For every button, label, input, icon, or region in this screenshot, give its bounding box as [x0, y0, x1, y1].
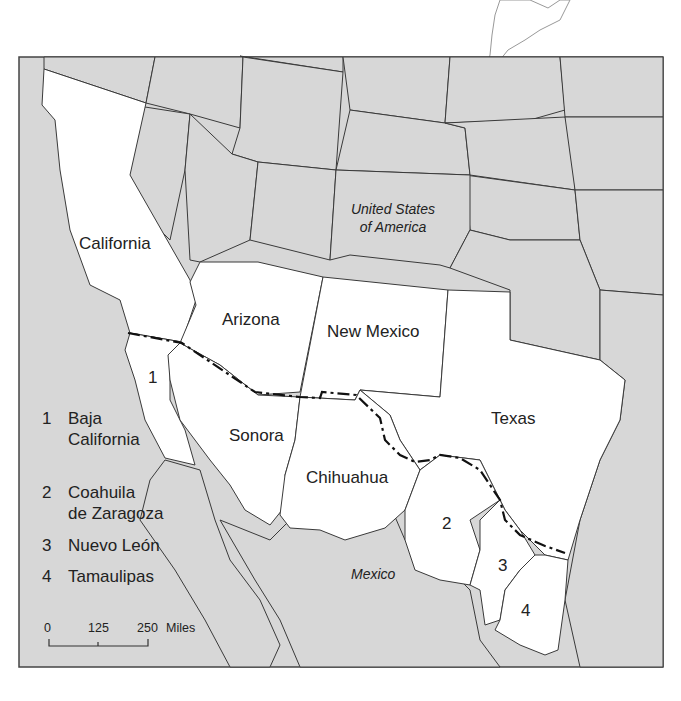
legend-num-4: 4 — [42, 567, 51, 586]
legend-num-3: 3 — [42, 536, 51, 555]
legend-num-2: 2 — [42, 483, 51, 502]
scale-unit: Miles — [166, 621, 195, 635]
label-mexico: Mexico — [351, 566, 396, 582]
legend-item-2-line1: Coahuila — [68, 483, 136, 502]
label-region-2: 2 — [442, 514, 451, 533]
label-chihuahua: Chihuahua — [306, 468, 389, 487]
legend-num-1: 1 — [42, 409, 51, 428]
label-usa-line1: United States — [351, 201, 435, 217]
scale-tick-125: 125 — [88, 621, 109, 635]
legend-item-2-line2: de Zaragoza — [68, 504, 164, 523]
legend-item-4: Tamaulipas — [68, 567, 154, 586]
legend-item-1-line1: Baja — [68, 409, 103, 428]
legend-item-1-line2: California — [68, 430, 140, 449]
scale-tick-250: 250 — [137, 621, 158, 635]
label-arizona: Arizona — [222, 310, 280, 329]
label-region-1: 1 — [148, 368, 157, 387]
label-region-3: 3 — [498, 556, 507, 575]
legend-item-3: Nuevo León — [68, 536, 160, 555]
label-usa-line2: of America — [360, 219, 427, 235]
map-canvas: United States of America California Ariz… — [0, 0, 681, 701]
label-region-4: 4 — [521, 601, 530, 620]
label-new-mexico: New Mexico — [327, 322, 420, 341]
label-california: California — [79, 234, 151, 253]
label-sonora: Sonora — [229, 426, 284, 445]
label-texas: Texas — [491, 409, 535, 428]
scale-tick-0: 0 — [44, 621, 51, 635]
